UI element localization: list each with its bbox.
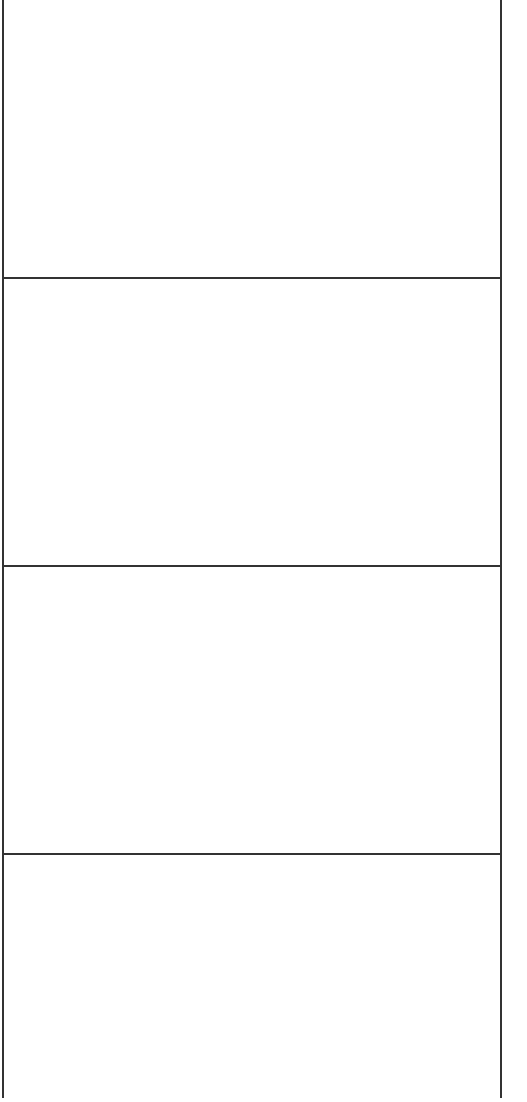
panel-3 (4, 565, 500, 853)
stacked-panels-container (2, 0, 502, 1098)
panel-2 (4, 277, 500, 565)
panel-1 (4, 0, 500, 278)
panel-4 (4, 853, 500, 1102)
